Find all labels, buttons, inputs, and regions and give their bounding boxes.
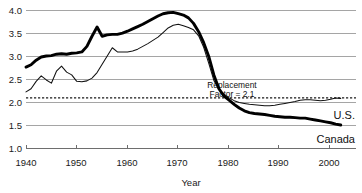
series-line-united-states — [26, 24, 341, 105]
xtick-label-1960: 1960 — [116, 157, 137, 168]
x-axis — [26, 145, 356, 149]
series-line-canada — [26, 12, 341, 125]
ytick-label-3.5: 3.5 — [9, 28, 22, 39]
ytick-label-2.5: 2.5 — [9, 74, 22, 85]
replacement-factor-line2: Factor = 2.1 — [210, 89, 255, 99]
xtick-label-1980: 1980 — [217, 157, 238, 168]
xtick-label-1990: 1990 — [267, 157, 288, 168]
series-label-us: U.S. — [334, 109, 355, 121]
ytick-label-1.5: 1.5 — [9, 120, 22, 131]
fertility-rate-chart: 4.0 3.5 3.0 2.5 2.0 1.5 1.0 1940 1950 19… — [0, 0, 362, 193]
x-axis-labels: 1940 1950 1960 1970 1980 1990 2000 — [15, 157, 339, 168]
y-axis-labels: 4.0 3.5 3.0 2.5 2.0 1.5 1.0 — [9, 5, 22, 154]
x-axis-title: Year — [181, 177, 200, 188]
ytick-label-1.0: 1.0 — [9, 143, 22, 154]
ytick-label-3.0: 3.0 — [9, 51, 22, 62]
xtick-label-2000: 2000 — [318, 157, 339, 168]
ytick-label-4.0: 4.0 — [9, 5, 22, 16]
chart-plot-area: 4.0 3.5 3.0 2.5 2.0 1.5 1.0 1940 1950 19… — [0, 0, 362, 193]
series-label-canada: Canada — [316, 133, 355, 145]
gridlines — [26, 11, 356, 126]
xtick-label-1950: 1950 — [65, 157, 86, 168]
xtick-label-1940: 1940 — [15, 157, 36, 168]
xtick-label-1970: 1970 — [166, 157, 187, 168]
ytick-label-2.0: 2.0 — [9, 97, 22, 108]
